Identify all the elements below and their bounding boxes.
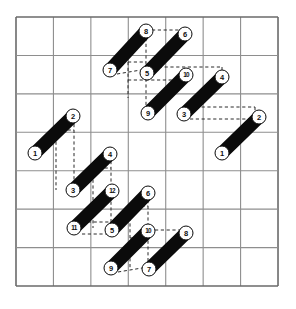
piece-endpoint-label-head: 2: [66, 109, 81, 124]
piece-endpoint-label-tail: 5: [140, 66, 155, 81]
piece-endpoint-label-tail: 3: [177, 107, 192, 122]
d-7-to-5-slope: [117, 70, 141, 74]
piece-endpoint-label-tail: 7: [142, 262, 157, 277]
piece-endpoint-label-tail: 7: [103, 63, 118, 78]
piece-endpoint-label-head: 8: [179, 226, 194, 241]
piece-endpoint-label-head: 4: [103, 147, 118, 162]
piece-endpoint-label-head: 6: [141, 186, 156, 201]
piece-endpoint-label-head: 2: [252, 110, 267, 125]
piece-endpoint-label-head: 8: [139, 24, 154, 39]
piece-endpoint-label-head: 4: [215, 70, 230, 85]
piece-endpoint-label-head: 12: [105, 184, 120, 199]
piece-endpoint-label-tail: 9: [104, 261, 119, 276]
piece-endpoint-label-tail: 9: [141, 106, 156, 121]
piece-endpoint-label-head: 6: [178, 27, 193, 42]
piece-endpoint-label-head: 10: [179, 68, 194, 83]
d-9-to-7-slope: [118, 268, 142, 272]
piece-endpoint-label-head: 10: [141, 224, 156, 239]
piece-endpoint-label-tail: 11: [67, 221, 82, 236]
piece-endpoint-label-tail: 1: [215, 146, 230, 161]
figure-canvas: 87651094321214312116510987: [0, 0, 296, 309]
piece-endpoint-label-tail: 5: [105, 223, 120, 238]
piece-endpoint-label-tail: 1: [28, 146, 43, 161]
piece-endpoint-label-tail: 3: [66, 183, 81, 198]
grid-lines: [16, 17, 278, 286]
